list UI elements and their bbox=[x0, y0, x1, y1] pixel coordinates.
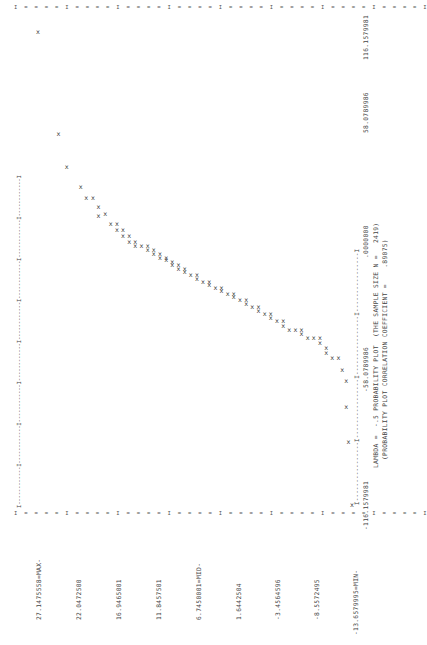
y-tick-label: 16.9465001 bbox=[115, 579, 122, 620]
data-point-marker: x bbox=[56, 131, 60, 137]
data-point-marker: x bbox=[347, 439, 351, 445]
x-axis-rule: I----------------I----------------I-----… bbox=[353, 249, 360, 505]
data-point-marker: x bbox=[170, 262, 174, 268]
data-point-marker: x bbox=[275, 318, 279, 324]
data-point-marker: x bbox=[109, 221, 113, 227]
data-point-marker: x bbox=[213, 285, 217, 291]
data-point-marker: x bbox=[127, 239, 131, 245]
data-point-marker: x bbox=[115, 227, 119, 233]
plot-caption: LAMBDA = -.5 PROBABILITY PLOT (THE SAMPL… bbox=[372, 223, 379, 468]
data-point-marker: x bbox=[84, 195, 88, 201]
data-point-marker: x bbox=[103, 211, 107, 217]
data-point-marker: x bbox=[226, 291, 230, 297]
data-point-marker: x bbox=[201, 279, 205, 285]
data-point-marker: x bbox=[340, 367, 344, 373]
data-point-marker: x bbox=[344, 378, 348, 384]
data-point-marker: x bbox=[269, 315, 273, 321]
data-point-marker: x bbox=[337, 355, 341, 361]
x-tick-label: -58.0789986 bbox=[362, 347, 369, 392]
data-point-marker: x bbox=[133, 243, 137, 249]
data-point-marker: x bbox=[306, 335, 310, 341]
data-point-marker: x bbox=[238, 297, 242, 303]
data-point-marker: x bbox=[146, 247, 150, 253]
y-tick-label: -3.4564596 bbox=[274, 579, 281, 620]
y-tick-label-mid: 6.7450001=MID- bbox=[195, 563, 202, 620]
data-point-marker: x bbox=[250, 304, 254, 310]
x-tick-label: -116.1579981 bbox=[362, 481, 369, 530]
data-point-marker: x bbox=[140, 243, 144, 249]
y-tick-label: -8.5572495 bbox=[313, 579, 320, 620]
data-point-marker: x bbox=[281, 323, 285, 329]
left-axis-rule: I------------I------------I------------I… bbox=[16, 175, 22, 508]
data-point-marker: x bbox=[312, 335, 316, 341]
data-point-marker: x bbox=[220, 288, 224, 294]
data-point-marker: x bbox=[330, 355, 334, 361]
data-point-marker: x bbox=[65, 164, 69, 170]
y-tick-label-max: 27.1475558=MAX- bbox=[35, 559, 42, 620]
x-tick-label: 58.0789986 bbox=[362, 92, 369, 133]
data-point-marker: x bbox=[176, 266, 180, 272]
data-point-marker: x bbox=[287, 327, 291, 333]
data-point-marker: x bbox=[318, 340, 322, 346]
top-tick-row: I = = = = I = = = = I = = = = I = = = = … bbox=[14, 4, 427, 10]
data-point-marker: x bbox=[300, 331, 304, 337]
x-tick-label: 116.1579981 bbox=[362, 15, 369, 60]
data-point-marker: x bbox=[183, 269, 187, 275]
data-point-marker: x bbox=[79, 184, 83, 190]
data-point-marker: x bbox=[207, 282, 211, 288]
data-point-marker: x bbox=[344, 404, 348, 410]
x-tick-label: .0000000 bbox=[362, 225, 369, 258]
data-point-marker: x bbox=[36, 29, 40, 35]
data-point-marker: x bbox=[152, 251, 156, 257]
data-point-marker: x bbox=[244, 301, 248, 307]
data-point-marker: x bbox=[293, 327, 297, 333]
y-tick-label: 1.6442504 bbox=[235, 583, 242, 620]
data-point-marker: x bbox=[189, 272, 193, 278]
data-point-marker: x bbox=[91, 195, 95, 201]
data-point-marker: x bbox=[232, 294, 236, 300]
data-point-marker: x bbox=[158, 255, 162, 261]
data-point-marker: x bbox=[164, 257, 168, 263]
data-point-marker: x bbox=[96, 213, 100, 219]
data-point-marker: x bbox=[121, 233, 125, 239]
y-tick-label: 11.8457501 bbox=[155, 579, 162, 620]
data-point-marker: x bbox=[263, 311, 267, 317]
y-tick-label-min: -13.6579995=MIN- bbox=[352, 570, 359, 635]
data-point-marker: x bbox=[350, 502, 354, 508]
data-point-marker: x bbox=[195, 276, 199, 282]
plot-caption-correlation: (PROBABILITY PLOT CORRELATION COEFFICIEN… bbox=[381, 239, 388, 460]
data-point-marker: x bbox=[96, 204, 100, 210]
y-tick-label: 22.0472500 bbox=[75, 579, 82, 620]
data-point-marker: x bbox=[256, 308, 260, 314]
data-point-marker: x bbox=[324, 350, 328, 356]
